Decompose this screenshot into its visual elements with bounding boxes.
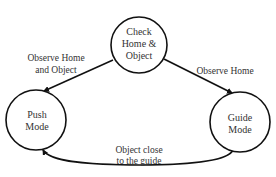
node-label: Check (126, 26, 152, 37)
edge-check-to-guide (164, 59, 232, 93)
edge-label-object-close: Object close (115, 145, 162, 155)
node-guide-mode: Guide Mode (210, 92, 270, 152)
node-push-mode: Push Mode (6, 90, 66, 150)
node-label: Push (27, 109, 46, 120)
edge-label-observe-home-and-object: Observe Home (27, 53, 84, 63)
node-label: Guide (228, 112, 253, 123)
edge-label-observe-home: Observe Home (196, 66, 253, 76)
node-label: Home & (122, 38, 157, 49)
state-diagram: Check Home & Object Push Mode Guide Mode… (0, 0, 276, 177)
node-label: Object (126, 50, 153, 61)
node-label: Mode (228, 124, 252, 135)
edge-label-object-close: to the guide (117, 156, 162, 166)
node-label: Mode (25, 121, 49, 132)
edge-label-observe-home-and-object: and Object (35, 65, 77, 75)
node-check-home-object: Check Home & Object (111, 17, 167, 73)
